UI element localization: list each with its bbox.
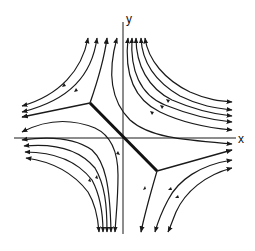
streamlines-lower-right: [155, 160, 232, 232]
x-axis-label: x: [238, 133, 244, 145]
streamlines-upper-right: [112, 38, 232, 144]
flow-arrows: [62, 83, 179, 198]
streamlines-upper-left: [22, 38, 97, 112]
phase-portrait-diagram: [0, 0, 255, 251]
axes: [14, 22, 236, 234]
y-axis-label: y: [126, 13, 132, 25]
